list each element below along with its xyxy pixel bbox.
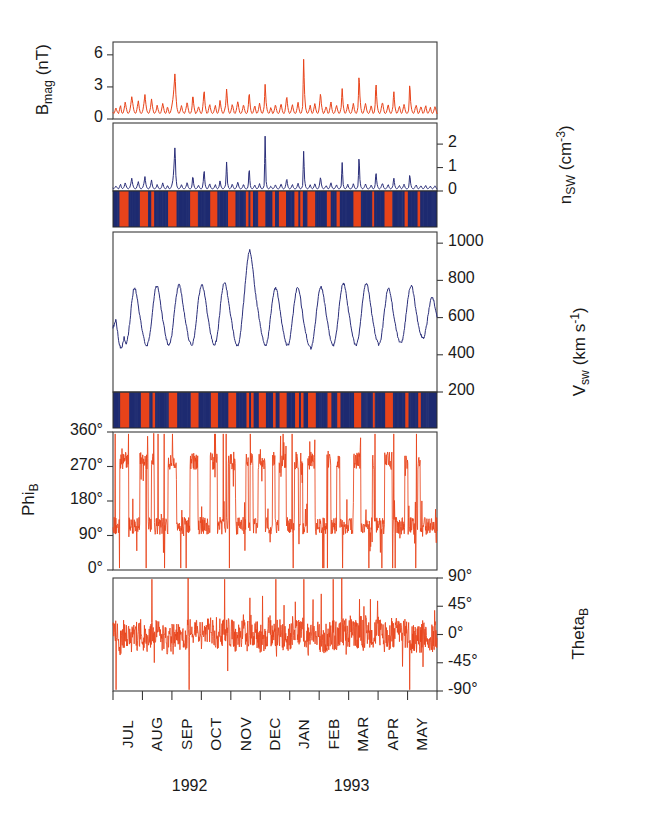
- y-tick-label-Phi_B: 360°: [70, 421, 103, 439]
- y-tick-label-B_mag: 0: [94, 108, 103, 126]
- sector-strip-upper-band: [300, 191, 303, 227]
- sector-strip-upper-band: [279, 191, 286, 227]
- x-month-label: DEC: [266, 712, 284, 756]
- trace-thetab: [113, 578, 437, 690]
- y-tick-label-V_SW: 400: [448, 344, 475, 362]
- sector-strip-upper-band: [140, 191, 148, 227]
- y-tick-label-Theta_B: 45°: [448, 595, 472, 613]
- sector-strip-upper-band: [228, 191, 235, 227]
- y-tick-label-Phi_B: 0°: [88, 559, 103, 577]
- axis-title-phib: PhiB: [19, 400, 40, 600]
- sector-strip-lower-band: [169, 392, 177, 428]
- trace-vsw: [113, 249, 437, 349]
- sector-strip-upper-band: [337, 191, 340, 227]
- axis-title-thetab: ThetaB: [569, 533, 590, 733]
- sector-strip-lower-band: [308, 392, 316, 428]
- y-tick-label-V_SW: 800: [448, 269, 475, 287]
- sector-strip-upper-band: [385, 191, 393, 227]
- sector-strip-upper-band: [246, 191, 249, 227]
- x-year-label-1993: 1993: [322, 777, 382, 795]
- trace-phib: [113, 433, 437, 568]
- x-month-label: OCT: [207, 712, 225, 756]
- sector-strip-upper-band: [250, 191, 253, 227]
- y-tick-label-n_SW: 0: [448, 180, 457, 198]
- sector-strip-upper-band: [353, 191, 360, 227]
- y-tick-label-Phi_B: 90°: [79, 525, 103, 543]
- x-year-label-1992: 1992: [160, 777, 220, 795]
- sector-strip-lower-band: [405, 392, 408, 428]
- sector-strip-lower-band: [251, 392, 254, 428]
- sector-strip-lower-band: [153, 392, 156, 428]
- y-tick-label-n_SW: 2: [448, 133, 457, 151]
- y-tick-label-Theta_B: -45°: [448, 652, 478, 670]
- x-month-label: APR: [384, 712, 402, 756]
- sector-strip-upper-band: [272, 191, 275, 227]
- y-tick-label-B_mag: 6: [94, 44, 103, 62]
- sector-strip-lower-band: [211, 392, 218, 428]
- solar-wind-figure: 03601220040060080010000°90°180°270°360°-…: [0, 0, 648, 836]
- y-tick-label-Theta_B: 90°: [448, 567, 472, 585]
- x-month-label: SEP: [178, 712, 196, 756]
- x-month-label: AUG: [148, 712, 166, 756]
- sector-strip-lower-band: [295, 392, 299, 428]
- sector-strip-upper-band: [307, 191, 315, 227]
- sector-strip-upper-band: [372, 191, 374, 227]
- x-month-label: NOV: [237, 712, 255, 756]
- sector-strip-lower-band: [120, 392, 129, 428]
- y-tick-label-Phi_B: 270°: [70, 456, 103, 474]
- sector-strip-lower-band: [191, 392, 199, 428]
- x-month-label: FEB: [325, 712, 343, 756]
- sector-strip-lower-band: [327, 392, 331, 428]
- x-month-label: JAN: [295, 712, 313, 756]
- y-tick-label-n_SW: 1: [448, 157, 457, 175]
- sector-strip-lower-band: [373, 392, 375, 428]
- axis-title-bmag: Bmag (nT): [33, 0, 54, 179]
- y-tick-label-Theta_B: -90°: [448, 680, 478, 698]
- axis-title-vsw: Vsw (km s-1): [568, 252, 592, 452]
- sector-strip-lower-band: [418, 392, 421, 428]
- sector-strip-lower-band: [273, 392, 276, 428]
- y-tick-label-V_SW: 600: [448, 307, 475, 325]
- sector-strip-lower-band: [337, 392, 340, 428]
- y-tick-label-V_SW: 1000: [448, 232, 484, 250]
- y-tick-label-V_SW: 200: [448, 381, 475, 399]
- y-tick-label-B_mag: 3: [94, 76, 103, 94]
- sector-strip-lower-band: [301, 392, 304, 428]
- sector-strip-upper-band: [258, 191, 265, 227]
- trace-bmag: [113, 59, 437, 113]
- sector-strip-upper-band: [190, 191, 198, 227]
- sector-strip-lower-band: [246, 392, 249, 428]
- sector-strip-upper-band: [210, 191, 217, 227]
- x-month-label: MAY: [413, 712, 431, 756]
- sector-strip-upper-band: [168, 191, 176, 227]
- x-month-label: JUL: [119, 712, 137, 756]
- sector-strip-lower-band: [259, 392, 266, 428]
- panel-nsw: [113, 123, 437, 191]
- sector-strip-upper-band: [294, 191, 298, 227]
- sector-strip-lower-band: [280, 392, 287, 428]
- trace-nsw: [113, 136, 437, 189]
- sector-strip-lower-band: [141, 392, 149, 428]
- sector-strip-upper-band: [418, 191, 421, 227]
- sector-strip-lower-band: [385, 392, 393, 428]
- sector-strip-upper-band: [151, 191, 154, 227]
- sector-strip-lower-band: [228, 392, 236, 428]
- y-tick-label-Phi_B: 180°: [70, 490, 103, 508]
- sector-strip-lower-band: [354, 392, 361, 428]
- axis-title-nsw: nSW (cm-3): [554, 65, 578, 265]
- x-month-label: MAR: [354, 712, 372, 756]
- sector-strip-upper-band: [327, 191, 331, 227]
- sector-strip-upper-band: [405, 191, 408, 227]
- sector-strip-upper-band: [119, 191, 128, 227]
- y-tick-label-Theta_B: 0°: [448, 624, 463, 642]
